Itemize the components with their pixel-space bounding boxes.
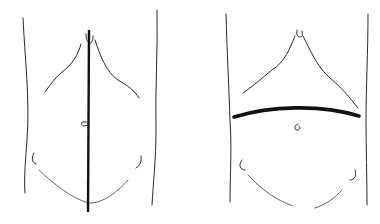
midline-incision bbox=[88, 30, 89, 212]
right-hip-right bbox=[350, 170, 356, 180]
right-torso-side-right bbox=[366, 14, 368, 205]
right-inguinal-curve-right bbox=[315, 190, 342, 208]
right-torso-side-left bbox=[226, 14, 231, 202]
right-costal-margin-right bbox=[303, 36, 358, 108]
figure bbox=[0, 0, 380, 224]
left-torso-side-left bbox=[23, 18, 28, 193]
right-xiphoid bbox=[297, 30, 303, 37]
panel-left-midline-incision bbox=[23, 10, 157, 212]
abdomen-diagrams bbox=[0, 0, 380, 224]
left-inguinal-curve bbox=[39, 170, 128, 203]
left-umbilicus bbox=[82, 122, 88, 126]
left-costal-margin-left bbox=[45, 44, 81, 92]
transverse-incision bbox=[234, 108, 359, 117]
right-inguinal-curve-left bbox=[248, 175, 293, 206]
right-umbilicus bbox=[295, 124, 300, 130]
right-costal-margin-left bbox=[243, 36, 295, 93]
left-hip-left bbox=[32, 153, 36, 164]
left-hip-right bbox=[136, 156, 141, 168]
left-costal-margin-right bbox=[95, 40, 139, 98]
left-torso-side-right bbox=[152, 10, 157, 205]
panel-right-transverse-incision bbox=[226, 14, 368, 208]
right-hip-left bbox=[240, 160, 245, 170]
